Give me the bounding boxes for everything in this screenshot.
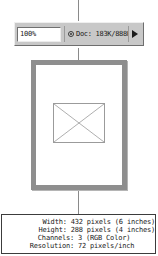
- image-info-panel: Width: 432 pixels (6 inches) Height: 288…: [1, 214, 156, 254]
- status-bar: 100% Doc: 183K/888K: [14, 22, 144, 46]
- info-value-channels: 3 (RGB Color): [78, 234, 130, 242]
- info-row: Height: 288 pixels (4 inches): [2, 226, 155, 234]
- zoom-level-value: 100%: [20, 31, 36, 38]
- info-value-width: 432 pixels (6 inches): [71, 218, 155, 226]
- crossed-box-placeholder-icon: [53, 103, 105, 143]
- info-label-resolution: Resolution:: [2, 242, 78, 250]
- info-label-height: Height:: [2, 226, 71, 234]
- connector-line-middle: [78, 48, 79, 60]
- info-row: Channels: 3 (RGB Color): [2, 234, 155, 242]
- zoom-level-input[interactable]: 100%: [17, 27, 61, 42]
- document-size-status[interactable]: Doc: 183K/888K: [64, 26, 128, 42]
- document-canvas-preview[interactable]: [31, 60, 127, 190]
- info-label-channels: Channels:: [2, 234, 78, 242]
- right-triangle-icon: [132, 30, 138, 38]
- status-bar-menu-button[interactable]: [128, 26, 141, 42]
- info-value-height: 288 pixels (4 inches): [71, 226, 155, 234]
- connector-line-bottom: [78, 190, 79, 214]
- info-value-resolution: 72 pixels/inch: [78, 242, 134, 250]
- document-status-icon: [68, 31, 74, 37]
- info-row: Width: 432 pixels (6 inches): [2, 218, 155, 226]
- info-row: Resolution: 72 pixels/inch: [2, 242, 155, 250]
- connector-line-top: [78, 0, 79, 21]
- info-label-width: Width:: [2, 218, 71, 226]
- document-size-text: Doc: 183K/888K: [76, 31, 128, 38]
